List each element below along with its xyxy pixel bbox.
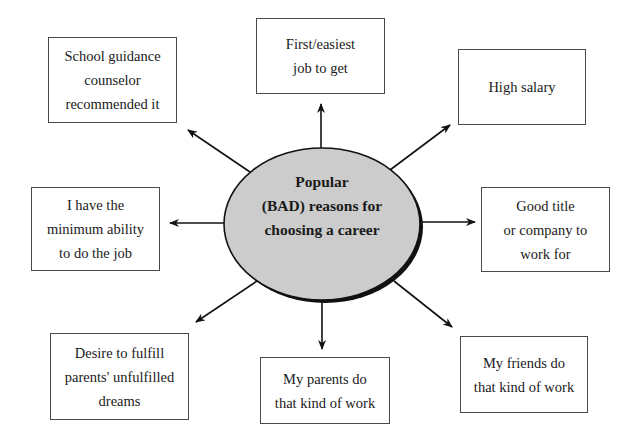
reason-box-easiest-job: First/easiest job to get xyxy=(256,18,385,94)
arrow-to-counselor xyxy=(188,130,250,172)
reason-text: My parents do xyxy=(275,367,375,391)
arrow-to-high-salary xyxy=(390,125,450,170)
center-label-line: choosing a career xyxy=(224,218,420,242)
reason-box-parents-dreams: Desire to fulfill parents' unfulfilled d… xyxy=(50,333,189,420)
reason-text: that kind of work xyxy=(474,375,574,399)
reason-text: that kind of work xyxy=(275,391,375,415)
reason-text: First/easiest xyxy=(286,32,355,56)
reason-text: My friends do xyxy=(474,351,574,375)
reason-text: Good title xyxy=(504,194,588,218)
reason-text: counselor xyxy=(64,68,160,92)
reason-box-high-salary: High salary xyxy=(458,49,586,125)
reason-text: or company to xyxy=(504,218,588,242)
arrow-to-parents-dreams xyxy=(196,281,257,322)
reason-text: minimum ability xyxy=(47,217,144,241)
arrow-to-friends-work xyxy=(394,281,452,327)
reason-text: recommended it xyxy=(64,92,160,116)
reason-text: work for xyxy=(504,242,588,266)
reason-box-minimum-ability: I have the minimum ability to do the job xyxy=(31,187,160,271)
reason-text: dreams xyxy=(65,389,174,413)
center-label-line: Popular xyxy=(224,170,420,194)
reason-text: job to get xyxy=(286,56,355,80)
reason-text: I have the xyxy=(47,193,144,217)
reason-text: High salary xyxy=(488,75,555,99)
reason-box-counselor: School guidance counselor recommended it xyxy=(48,37,177,123)
reason-text: School guidance xyxy=(64,44,160,68)
reason-text: Desire to fulfill xyxy=(65,341,174,365)
reason-text: parents' unfulfilled xyxy=(65,365,174,389)
center-label-line: (BAD) reasons for xyxy=(224,194,420,218)
reason-box-parents-work: My parents do that kind of work xyxy=(260,357,390,424)
reason-box-friends-work: My friends do that kind of work xyxy=(460,336,588,413)
reason-box-good-title: Good title or company to work for xyxy=(481,187,610,272)
center-label: Popular (BAD) reasons for choosing a car… xyxy=(224,170,420,242)
reason-text: to do the job xyxy=(47,241,144,265)
